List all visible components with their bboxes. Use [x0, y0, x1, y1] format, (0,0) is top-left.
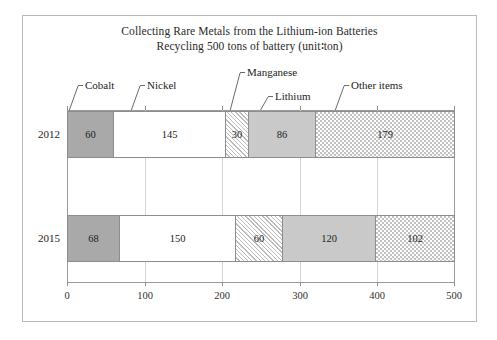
callout-manganese-label: Manganese — [240, 66, 297, 78]
segment-2015-manganese-value: 60 — [254, 233, 265, 244]
tick-top-100 — [145, 106, 146, 110]
callout-nickel: Nickel — [140, 79, 176, 91]
tick-top-500 — [454, 106, 455, 110]
tick-bottom-200 — [222, 282, 223, 286]
callout-other-items-label: Other items — [344, 79, 403, 91]
xtick-label-300: 300 — [292, 290, 308, 301]
segment-2015-lithium-value: 120 — [321, 233, 337, 244]
xtick-label-0: 0 — [64, 290, 69, 301]
leader-line-manganese — [228, 73, 244, 112]
segment-2012-other-items-value: 179 — [377, 129, 393, 140]
segment-2012-other-items[interactable]: 179 — [316, 111, 455, 158]
segment-2015-manganese[interactable]: 60 — [236, 215, 283, 262]
tick-top-300 — [300, 106, 301, 110]
segment-2012-manganese-value: 30 — [232, 129, 243, 140]
plot-area: 0 100 200 300 400 500 60 145 30 86 179 — [67, 110, 455, 282]
callout-lithium-label: Lithium — [268, 90, 310, 102]
tick-bottom-300 — [300, 282, 301, 286]
tick-top-400 — [377, 106, 378, 110]
leader-line-other-items — [332, 86, 348, 112]
chart-title: Collecting Rare Metals from the Lithium-… — [22, 24, 477, 54]
segment-2012-nickel[interactable]: 145 — [114, 111, 226, 158]
segment-2015-lithium[interactable]: 120 — [283, 215, 376, 262]
segment-2012-nickel-value: 145 — [162, 129, 178, 140]
callout-other-items: Other items — [344, 79, 403, 91]
callout-lithium: Lithium — [268, 90, 310, 102]
tick-bottom-100 — [145, 282, 146, 286]
segment-2015-other-items-value: 102 — [407, 233, 423, 244]
leader-line-nickel — [128, 86, 144, 112]
segment-2012-manganese[interactable]: 30 — [226, 111, 249, 158]
chart-figure: Collecting Rare Metals from the Lithium-… — [0, 0, 497, 340]
xtick-label-400: 400 — [369, 290, 385, 301]
xtick-label-100: 100 — [137, 290, 153, 301]
segment-2015-cobalt-value: 68 — [88, 233, 99, 244]
xtick-label-200: 200 — [214, 290, 230, 301]
segment-2015-other-items[interactable]: 102 — [376, 215, 455, 262]
tick-bottom-400 — [377, 282, 378, 286]
tick-top-200 — [222, 106, 223, 110]
callout-cobalt: Cobalt — [78, 79, 114, 91]
callout-manganese: Manganese — [240, 66, 297, 78]
segment-2012-lithium-value: 86 — [277, 129, 288, 140]
year-label-2012: 2012 — [38, 128, 60, 140]
segment-2012-lithium[interactable]: 86 — [249, 111, 316, 158]
segment-2012-cobalt[interactable]: 60 — [67, 111, 114, 158]
tick-top-0 — [67, 106, 68, 110]
tick-bottom-0 — [67, 282, 68, 286]
callout-cobalt-label: Cobalt — [78, 79, 114, 91]
segment-2015-nickel-value: 150 — [170, 233, 186, 244]
xtick-label-500: 500 — [446, 290, 462, 301]
leader-line-cobalt — [66, 86, 82, 112]
chart-title-line-1: Collecting Rare Metals from the Lithium-… — [22, 24, 477, 39]
callout-nickel-label: Nickel — [140, 79, 176, 91]
segment-2012-cobalt-value: 60 — [85, 129, 96, 140]
chart-title-line-2: Recycling 500 tons of battery (unit∶ton) — [22, 39, 477, 54]
tick-bottom-500 — [454, 282, 455, 286]
year-label-2015: 2015 — [38, 232, 60, 244]
axis-bottom-line — [67, 282, 455, 283]
segment-2015-nickel[interactable]: 150 — [120, 215, 236, 262]
segment-2015-cobalt[interactable]: 68 — [67, 215, 120, 262]
